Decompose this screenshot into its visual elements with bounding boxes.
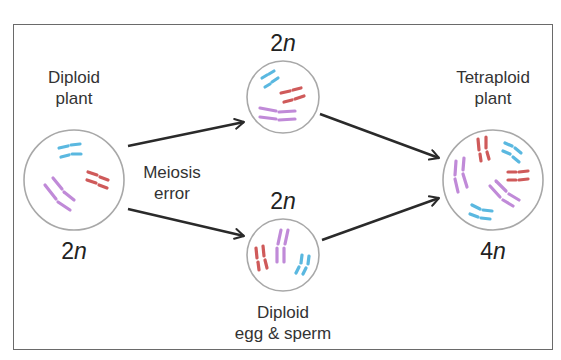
- ploidy-number: 2: [270, 188, 283, 214]
- ploidy-variable: n: [283, 30, 296, 56]
- diploid-plant-label-line1: Diploid: [48, 67, 100, 88]
- ploidy-variable: n: [493, 238, 506, 264]
- cell-tetraploid-plant: [443, 130, 543, 230]
- diploid-plant-label: Diploid plant: [48, 67, 100, 109]
- arrow-diploid-to-gamete-bottom: [128, 209, 244, 236]
- cell-gamete-top: [247, 61, 319, 133]
- meiosis-error-label: Meiosis error: [143, 162, 201, 204]
- arrow-gamete-top-to-tetraploid: [320, 114, 439, 158]
- tetraploid-plant-label: Tetraploid plant: [456, 67, 530, 109]
- gamete-top-ploidy: 2n: [270, 30, 296, 56]
- ploidy-number: 2: [61, 238, 74, 264]
- diploid-plant-label-line2: plant: [48, 88, 100, 109]
- arrow-diploid-to-gamete-top: [128, 122, 244, 146]
- tetraploid-plant-label-line1: Tetraploid: [456, 67, 530, 88]
- tetraploid-plant-label-line2: plant: [456, 88, 530, 109]
- cell-gamete-bottom: [247, 219, 319, 291]
- meiosis-error-line2: error: [143, 183, 201, 204]
- ploidy-number: 4: [480, 238, 493, 264]
- arrow-gamete-bottom-to-tetraploid: [322, 198, 439, 240]
- ploidy-variable: n: [74, 238, 87, 264]
- ploidy-number: 2: [270, 30, 283, 56]
- gamete-bottom-ploidy: 2n: [270, 188, 296, 214]
- cell-diploid-plant: [24, 130, 124, 230]
- diploid-plant-ploidy: 2n: [61, 238, 87, 264]
- gamete-bottom-label-line2: egg & sperm: [235, 323, 331, 344]
- ploidy-variable: n: [283, 188, 296, 214]
- meiosis-error-line1: Meiosis: [143, 162, 201, 183]
- gamete-bottom-label-line1: Diploid: [235, 302, 331, 323]
- tetraploid-plant-ploidy: 4n: [480, 238, 506, 264]
- gamete-bottom-label: Diploid egg & sperm: [235, 302, 331, 344]
